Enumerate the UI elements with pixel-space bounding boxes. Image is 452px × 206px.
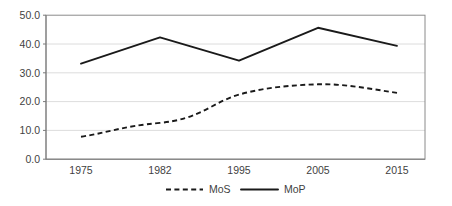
x-axis-label-1975: 1975	[69, 164, 93, 176]
legend-label-mop: MoP	[284, 183, 306, 195]
y-axis-label-10: 10.0	[20, 124, 41, 136]
x-axis-label-1982: 1982	[148, 164, 172, 176]
x-axis-label-2015: 2015	[385, 164, 409, 176]
y-axis-label-40: 40.0	[20, 38, 41, 50]
x-axis-label-1995: 1995	[227, 164, 251, 176]
y-axis-label-50: 50.0	[20, 9, 41, 21]
line-chart: 50.0 40.0 30.0 20.0 10.0 0.0 1975 1982 1…	[0, 0, 452, 206]
y-axis-labels: 50.0 40.0 30.0 20.0 10.0 0.0	[20, 9, 41, 165]
series-line-mop	[81, 28, 397, 64]
legend: MoS MoP	[166, 183, 306, 195]
y-axis-label-30: 30.0	[20, 67, 41, 79]
y-axis-label-20: 20.0	[20, 95, 41, 107]
chart-canvas: 50.0 40.0 30.0 20.0 10.0 0.0 1975 1982 1…	[0, 0, 452, 206]
x-axis-labels: 1975 1982 1995 2005 2015	[69, 164, 409, 176]
legend-label-mos: MoS	[209, 183, 231, 195]
x-axis-label-2005: 2005	[306, 164, 330, 176]
plot-area-border	[46, 15, 425, 159]
series-line-mos	[81, 84, 397, 136]
y-axis-label-0: 0.0	[25, 153, 40, 165]
